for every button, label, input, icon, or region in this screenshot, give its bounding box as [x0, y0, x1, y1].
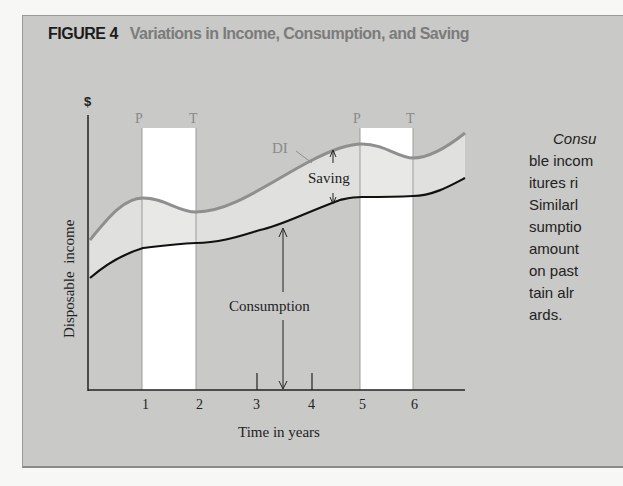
body-text-fragment: Consu ble incom itures ri Similarl sumpt…: [529, 128, 609, 326]
trough-label-1: T: [189, 111, 198, 126]
di-label: DI: [272, 140, 288, 156]
text-line: sumptio: [529, 216, 609, 238]
peak-label-2: P: [353, 111, 361, 126]
text-line: tain alr: [529, 282, 609, 304]
text-line: Consu: [529, 128, 609, 150]
peak-label-1: P: [135, 111, 143, 126]
x-axis-label: Time in years: [238, 424, 320, 440]
dollar-label: $: [84, 94, 92, 109]
tick-label-4: 4: [308, 397, 315, 412]
text-line: Similarl: [529, 194, 609, 216]
tick-label-1: 1: [142, 397, 149, 412]
recession-band-1: [142, 128, 196, 390]
text-line: ble incom: [529, 150, 609, 172]
text-line: itures ri: [529, 172, 609, 194]
consumption-label: Consumption: [229, 298, 310, 314]
saving-label: Saving: [308, 170, 350, 186]
trough-label-2: T: [406, 111, 415, 126]
text-line: amount: [529, 238, 609, 260]
tick-label-2: 2: [196, 397, 203, 412]
tick-label-6: 6: [411, 397, 418, 412]
y-axis-label: Disposable income: [61, 219, 77, 338]
text-line: on past: [529, 260, 609, 282]
tick-label-5: 5: [359, 397, 366, 412]
di-leader: [296, 151, 312, 163]
tick-label-3: 3: [253, 397, 260, 412]
text-line: ards.: [529, 304, 609, 326]
